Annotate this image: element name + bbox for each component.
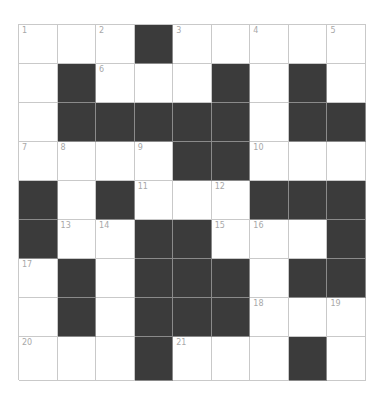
black-square [289,259,328,298]
answer-cell[interactable]: 4 [250,25,289,64]
black-square [173,298,212,337]
answer-cell[interactable] [135,64,174,103]
answer-cell[interactable] [19,64,58,103]
answer-cell[interactable]: 18 [250,298,289,337]
answer-cell[interactable]: 12 [212,181,251,220]
answer-cell[interactable]: 6 [96,64,135,103]
answer-cell[interactable] [173,64,212,103]
clue-number: 6 [99,66,104,74]
black-square [58,259,97,298]
answer-cell[interactable] [96,259,135,298]
answer-cell[interactable] [19,298,58,337]
black-square [173,259,212,298]
crossword-grid: 123456789101112131415161718192021 [18,24,366,380]
answer-cell[interactable]: 16 [250,220,289,259]
answer-cell[interactable] [212,25,251,64]
answer-cell[interactable]: 1 [19,25,58,64]
black-square [212,142,251,181]
answer-cell[interactable] [250,337,289,381]
black-square [173,220,212,259]
answer-cell[interactable] [58,25,97,64]
clue-number: 3 [176,27,181,35]
clue-number: 21 [176,339,186,347]
answer-cell[interactable]: 15 [212,220,251,259]
clue-number: 12 [215,183,225,191]
black-square [250,181,289,220]
black-square [212,259,251,298]
black-square [212,103,251,142]
answer-cell[interactable]: 20 [19,337,58,381]
black-square [96,181,135,220]
clue-number: 10 [253,144,263,152]
black-square [289,103,328,142]
answer-cell[interactable] [289,220,328,259]
black-square [135,25,174,64]
black-square [135,337,174,381]
black-square [327,259,366,298]
answer-cell[interactable]: 5 [327,25,366,64]
answer-cell[interactable] [289,298,328,337]
answer-cell[interactable] [289,142,328,181]
answer-cell[interactable] [327,142,366,181]
answer-cell[interactable] [96,337,135,381]
black-square [135,259,174,298]
answer-cell[interactable] [250,64,289,103]
answer-cell[interactable] [96,298,135,337]
clue-number: 20 [22,339,32,347]
answer-cell[interactable]: 13 [58,220,97,259]
answer-cell[interactable]: 9 [135,142,174,181]
answer-cell[interactable]: 8 [58,142,97,181]
black-square [19,220,58,259]
answer-cell[interactable]: 14 [96,220,135,259]
answer-cell[interactable]: 10 [250,142,289,181]
answer-cell[interactable] [58,337,97,381]
clue-number: 11 [138,183,148,191]
clue-number: 5 [330,27,335,35]
answer-cell[interactable] [58,181,97,220]
black-square [327,181,366,220]
clue-number: 2 [99,27,104,35]
black-square [212,64,251,103]
black-square [212,298,251,337]
clue-number: 1 [22,27,27,35]
answer-cell[interactable]: 19 [327,298,366,337]
black-square [135,298,174,337]
black-square [135,103,174,142]
black-square [58,298,97,337]
clue-number: 15 [215,222,225,230]
clue-number: 16 [253,222,263,230]
answer-cell[interactable] [327,64,366,103]
answer-cell[interactable] [212,337,251,381]
black-square [173,103,212,142]
answer-cell[interactable]: 21 [173,337,212,381]
black-square [289,337,328,381]
answer-cell[interactable]: 11 [135,181,174,220]
black-square [289,181,328,220]
answer-cell[interactable] [96,142,135,181]
clue-number: 7 [22,144,27,152]
answer-cell[interactable]: 2 [96,25,135,64]
black-square [135,220,174,259]
clue-number: 14 [99,222,109,230]
black-square [19,181,58,220]
answer-cell[interactable] [250,259,289,298]
black-square [58,64,97,103]
black-square [58,103,97,142]
clue-number: 4 [253,27,258,35]
black-square [173,142,212,181]
answer-cell[interactable]: 17 [19,259,58,298]
answer-cell[interactable] [19,103,58,142]
clue-number: 8 [61,144,66,152]
black-square [96,103,135,142]
clue-number: 9 [138,144,143,152]
clue-number: 19 [330,300,340,308]
answer-cell[interactable] [250,103,289,142]
clue-number: 17 [22,261,32,269]
clue-number: 13 [61,222,71,230]
black-square [327,103,366,142]
answer-cell[interactable] [173,181,212,220]
answer-cell[interactable]: 7 [19,142,58,181]
answer-cell[interactable]: 3 [173,25,212,64]
answer-cell[interactable] [327,337,366,381]
answer-cell[interactable] [289,25,328,64]
